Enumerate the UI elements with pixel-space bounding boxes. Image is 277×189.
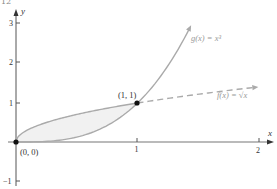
y-axis-arrow-icon	[14, 9, 19, 16]
tick-label-y-2: 2	[9, 58, 13, 67]
y-axis-label: y	[20, 6, 25, 16]
point-one-one	[134, 100, 139, 105]
tick-label-x-2: 2	[256, 146, 260, 155]
point-label-origin: (0, 0)	[20, 147, 39, 157]
chart: y x 3 2 1 −1 1 2 (0, 0) (1, 1) g(x) = x³…	[0, 0, 277, 189]
point-label-one-one: (1, 1)	[118, 90, 137, 100]
f-function-label: f(x) = √x	[217, 90, 247, 100]
tick-label-y-3: 3	[9, 19, 13, 28]
g-function-label: g(x) = x³	[191, 33, 221, 43]
tick-label-y-neg1: −1	[3, 177, 12, 186]
point-origin	[13, 139, 18, 144]
f-curve-arrow-icon	[252, 85, 258, 90]
y-axis	[14, 9, 21, 186]
shaded-region	[16, 103, 138, 142]
x-axis-arrow-icon	[267, 140, 274, 145]
tick-label-x-1: 1	[135, 145, 139, 154]
x-axis-label: x	[267, 128, 272, 138]
tick-label-y-1: 1	[9, 99, 13, 108]
